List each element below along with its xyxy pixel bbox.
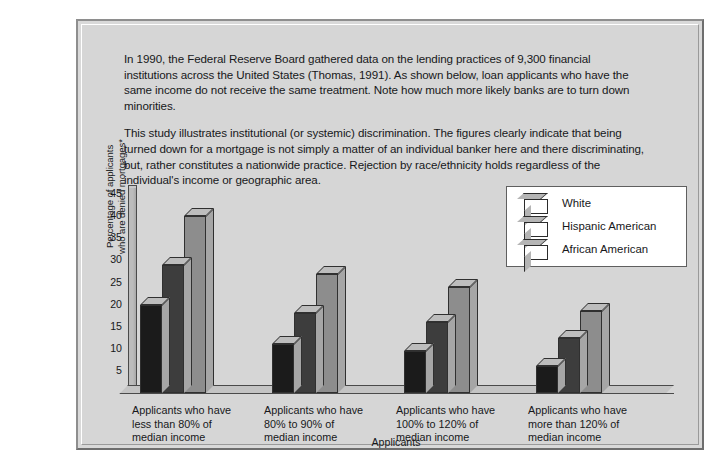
y-axis-tick-25: 25 — [102, 276, 122, 288]
bar-side-face — [580, 330, 588, 393]
bar-white-group-3 — [404, 351, 426, 393]
bar-white-group-1 — [140, 305, 162, 393]
bar-front-face — [272, 344, 294, 393]
y-axis-tick-40: 40 — [102, 209, 122, 221]
figure-panel: In 1990, the Federal Reserve Board gathe… — [76, 19, 704, 450]
bar-side-face — [448, 314, 456, 393]
y-axis-tick-30: 30 — [102, 253, 122, 265]
y-axis-tick-10: 10 — [102, 342, 122, 354]
y-axis-tick-35: 35 — [102, 231, 122, 243]
bar-white-group-4 — [536, 366, 558, 393]
y-axis-tick-20: 20 — [102, 298, 122, 310]
bar-chart-plot: Percentage of applicants who are denied … — [82, 25, 710, 456]
x-axis-title: Applicants — [82, 436, 710, 448]
y-axis-tick-5: 5 — [102, 364, 122, 376]
bar-side-face — [162, 297, 170, 393]
bar-side-face — [338, 266, 346, 393]
bar-side-face — [470, 279, 478, 393]
bar-side-face — [184, 257, 192, 393]
bar-side-face — [316, 305, 324, 393]
axis-wall — [128, 188, 137, 393]
bar-side-face — [294, 336, 302, 393]
figure-panel-inner: In 1990, the Federal Reserve Board gathe… — [81, 24, 699, 445]
y-axis-tick-15: 15 — [102, 320, 122, 332]
bar-side-face — [602, 303, 610, 393]
bar-front-face — [404, 351, 426, 393]
axis-floor-edge — [137, 393, 674, 394]
y-axis-tick-45: 45 — [102, 187, 122, 199]
bar-side-face — [206, 208, 214, 393]
bar-front-face — [140, 305, 162, 393]
bar-side-face — [426, 343, 434, 393]
bar-white-group-2 — [272, 344, 294, 393]
bar-front-face — [536, 366, 558, 393]
